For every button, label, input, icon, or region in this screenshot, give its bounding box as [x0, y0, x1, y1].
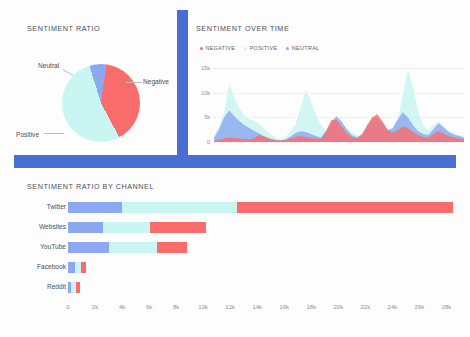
bar-segment-negative[interactable] [150, 222, 205, 233]
bar-row[interactable]: YouTube [0, 242, 470, 253]
pie-label-negative: Negative [143, 78, 169, 85]
bar-segment-positive[interactable] [103, 222, 150, 233]
dashboard-root: SENTIMENT RATIO Neutral Negative Positiv… [0, 0, 470, 337]
bar-x-tick-label: 6k [146, 304, 152, 310]
area-chart-sentiment-over-time: 05k10k15k [196, 58, 464, 150]
bar-x-tick-label: 20k [334, 304, 344, 310]
bar-chart-sentiment-by-channel: TwitterWebsitesYouTubeFacebookReddit 02k… [0, 198, 470, 337]
bar-segment-negative[interactable] [81, 262, 86, 273]
pie-label-positive: Positive [16, 131, 39, 138]
bar-segment-negative[interactable] [157, 242, 187, 253]
pie-slices [62, 64, 140, 142]
bar-category-label: Twitter [0, 203, 66, 210]
bar-segment-neutral[interactable] [68, 262, 75, 273]
bar-track [68, 262, 86, 273]
legend-swatch-icon [286, 47, 289, 50]
bar-x-tick-label: 24k [388, 304, 398, 310]
panel-title-sentiment-over-time: SENTIMENT OVER TIME [196, 24, 289, 33]
bar-segment-negative[interactable] [76, 282, 80, 293]
area-y-tick-label: 0 [196, 139, 210, 145]
bar-row[interactable]: Reddit [0, 282, 470, 293]
pie-leader-positive [44, 133, 64, 134]
bar-track [68, 242, 187, 253]
bar-category-label: Facebook [0, 263, 66, 270]
area-y-tick-label: 10k [196, 90, 210, 96]
bar-category-label: YouTube [0, 243, 66, 250]
bar-x-tick-label: 12k [225, 304, 235, 310]
bar-category-label: Websites [0, 223, 66, 230]
bar-track [68, 222, 206, 233]
bar-x-tick-label: 0 [66, 304, 69, 310]
panel-title-sentiment-ratio: SENTIMENT RATIO [27, 24, 100, 33]
bar-x-tick-label: 10k [198, 304, 208, 310]
bar-segment-negative[interactable] [237, 202, 453, 213]
bar-x-tick-label: 4k [119, 304, 125, 310]
panel-title-sentiment-by-channel: SENTIMENT RATIO BY CHANNEL [27, 182, 154, 191]
legend-item-negative[interactable]: NEGATIVE [200, 45, 235, 51]
bar-x-tick-label: 26k [415, 304, 425, 310]
legend-label: POSITIVE [250, 45, 278, 51]
bar-x-tick-label: 8k [173, 304, 179, 310]
pie-leader-negative [126, 82, 142, 83]
bar-x-tick-label: 14k [252, 304, 262, 310]
bar-category-label: Reddit [0, 283, 66, 290]
area-gridline [214, 142, 464, 144]
legend-label: NEGATIVE [206, 45, 236, 51]
bar-segment-neutral[interactable] [68, 242, 109, 253]
pie-label-neutral: Neutral [38, 62, 59, 69]
bar-segment-positive[interactable] [109, 242, 158, 253]
bar-row[interactable]: Websites [0, 222, 470, 233]
area-y-tick-label: 15k [196, 65, 210, 71]
legend-swatch-icon [244, 47, 247, 50]
bar-x-tick-label: 16k [279, 304, 289, 310]
bar-track [68, 202, 453, 213]
bar-track [68, 282, 80, 293]
legend-swatch-icon [200, 47, 203, 50]
bar-x-tick-label: 22k [361, 304, 371, 310]
bar-segment-neutral[interactable] [68, 222, 103, 233]
bar-chart-x-axis: 02k4k6k8k10k12k14k16k18k20k22k24k26k28k [68, 304, 460, 318]
pie-chart-sentiment-ratio [62, 64, 140, 142]
divider-horizontal [14, 155, 456, 168]
bar-x-tick-label: 2k [92, 304, 98, 310]
bar-row[interactable]: Twitter [0, 202, 470, 213]
bar-x-tick-label: 18k [306, 304, 316, 310]
legend-item-positive[interactable]: POSITIVE [244, 45, 277, 51]
bar-x-tick-label: 28k [442, 304, 452, 310]
legend-label: NEUTRAL [292, 45, 320, 51]
area-y-tick-label: 5k [196, 114, 210, 120]
legend-item-neutral[interactable]: NEUTRAL [286, 45, 319, 51]
area-chart-plot [214, 58, 464, 142]
divider-vertical [177, 10, 188, 158]
bar-segment-neutral[interactable] [68, 202, 122, 213]
legend-sentiment-over-time: NEGATIVEPOSITIVENEUTRAL [200, 45, 319, 51]
bar-row[interactable]: Facebook [0, 262, 470, 273]
bar-segment-positive[interactable] [122, 202, 237, 213]
